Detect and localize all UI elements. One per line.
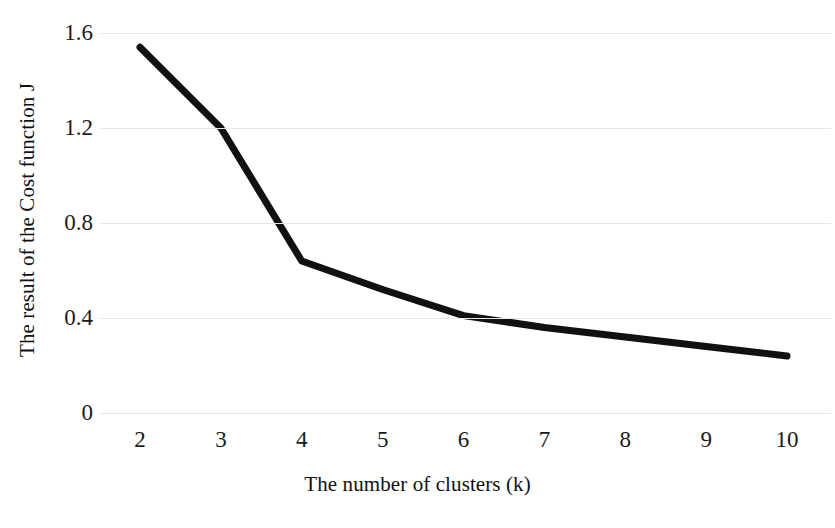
cost-function-line-series bbox=[100, 0, 831, 420]
x-axis-tick-label: 10 bbox=[757, 426, 817, 454]
x-axis-tick-label: 9 bbox=[676, 426, 736, 454]
x-axis-tick-labels: 2345678910 bbox=[0, 426, 835, 460]
y-axis-tick-label: 0.4 bbox=[7, 306, 93, 329]
gridline bbox=[100, 413, 831, 414]
chart-figure: The result of the Cost function J 1.61.2… bbox=[0, 0, 835, 528]
gridline bbox=[100, 223, 831, 224]
gridline bbox=[100, 33, 831, 34]
y-axis-tick-label: 1.2 bbox=[7, 116, 93, 139]
x-axis-tick-label: 4 bbox=[272, 426, 332, 454]
x-axis-title: The number of clusters (k) bbox=[0, 472, 835, 497]
gridline bbox=[100, 318, 831, 319]
y-axis-tick-label: 0.8 bbox=[7, 211, 93, 234]
x-axis-tick-label: 6 bbox=[434, 426, 494, 454]
x-axis-tick-label: 2 bbox=[110, 426, 170, 454]
x-axis-tick-label: 7 bbox=[514, 426, 574, 454]
plot-area bbox=[100, 0, 831, 420]
x-axis-tick-label: 5 bbox=[353, 426, 413, 454]
series-polyline bbox=[140, 47, 787, 356]
x-axis-tick-label: 3 bbox=[191, 426, 251, 454]
x-axis-tick-label: 8 bbox=[595, 426, 655, 454]
gridline bbox=[100, 128, 831, 129]
y-axis-tick-label: 0 bbox=[7, 401, 93, 424]
y-axis-tick-label: 1.6 bbox=[7, 21, 93, 44]
